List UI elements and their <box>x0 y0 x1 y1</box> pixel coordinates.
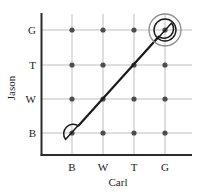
y-axis-title: Jason <box>6 76 17 100</box>
y-tick-label-w: W <box>26 94 36 105</box>
diagonal-capsule-annotation <box>64 23 174 139</box>
y-tick-label-t: T <box>29 60 36 71</box>
data-point <box>131 27 136 32</box>
capsule-outline <box>64 23 174 139</box>
data-point <box>100 62 105 67</box>
y-tick-label-g: G <box>28 25 36 36</box>
x-tick-label-t: T <box>131 162 138 173</box>
data-point <box>131 130 136 135</box>
x-tick-label-g: G <box>161 162 169 173</box>
data-point <box>100 27 105 32</box>
data-point <box>162 130 167 135</box>
data-point <box>131 96 136 101</box>
data-point <box>69 62 74 67</box>
data-point <box>69 27 74 32</box>
data-point <box>162 62 167 67</box>
data-point <box>69 96 74 101</box>
x-axis-title: Carl <box>109 177 128 188</box>
x-tick-label-b: B <box>68 162 75 173</box>
data-point <box>162 96 167 101</box>
x-tick-label-w: W <box>98 162 108 173</box>
data-point <box>100 130 105 135</box>
scatter-plot-figure: G T W B B W T G Carl Jason <box>0 0 199 195</box>
y-tick-label-b: B <box>29 128 36 139</box>
